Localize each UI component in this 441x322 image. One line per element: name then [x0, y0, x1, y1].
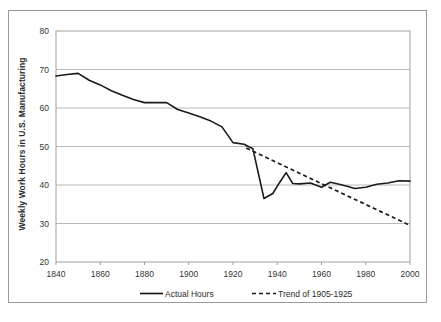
y-axis-title: Weekly Work Hours in U.S. Manufacturing — [14, 18, 30, 270]
chart-frame — [8, 10, 427, 303]
y-axis-title-text: Weekly Work Hours in U.S. Manufacturing — [17, 57, 27, 230]
